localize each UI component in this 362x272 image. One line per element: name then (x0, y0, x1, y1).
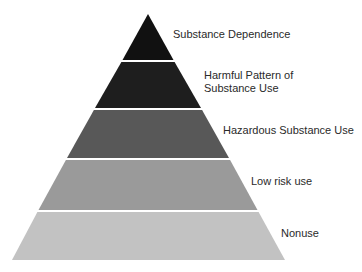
level-4-label: Low risk use (251, 175, 312, 188)
level-3-label: Hazardous Substance Use (223, 124, 354, 137)
pyramid-level-5 (12, 212, 285, 260)
pyramid-level-1 (123, 14, 174, 60)
pyramid-level-2 (95, 62, 201, 108)
pyramid-level-3 (67, 110, 229, 158)
level-2-label: Harmful Pattern of Substance Use (204, 69, 293, 95)
level-1-label: Substance Dependence (173, 28, 290, 41)
level-5-label: Nonuse (281, 227, 319, 240)
pyramid-level-4 (39, 160, 258, 210)
